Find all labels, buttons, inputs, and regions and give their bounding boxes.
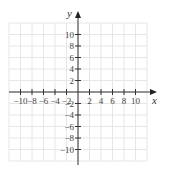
y-tick-label: 8 [70,41,75,51]
y-tick-label: −10 [60,145,75,155]
y-tick-label: 4 [70,64,75,74]
x-axis-title: x [151,94,157,106]
x-tick-label: 10 [131,96,141,106]
y-tick-label: −6 [64,122,74,132]
x-tick-label: 6 [110,96,115,106]
x-tick-label: −4 [50,96,60,106]
x-tick-label: 8 [122,96,127,106]
y-tick-label: −2 [64,99,74,109]
y-tick-label: 2 [70,76,75,86]
x-tick-label: −6 [39,96,49,106]
y-tick-label: 6 [70,53,75,63]
x-tick-label: 2 [87,96,92,106]
x-tick-label: −10 [13,96,28,106]
y-axis-arrow-icon [75,11,81,18]
x-tick-label: −8 [27,96,37,106]
y-tick-label: −8 [64,133,74,143]
coordinate-plane: −10−8−6−4−2246810108642−2−4−6−8−10 x y [0,0,170,176]
y-tick-label: −4 [64,110,74,120]
y-axis-title: y [66,7,72,19]
x-tick-label: 4 [99,96,104,106]
y-tick-label: 10 [65,30,75,40]
